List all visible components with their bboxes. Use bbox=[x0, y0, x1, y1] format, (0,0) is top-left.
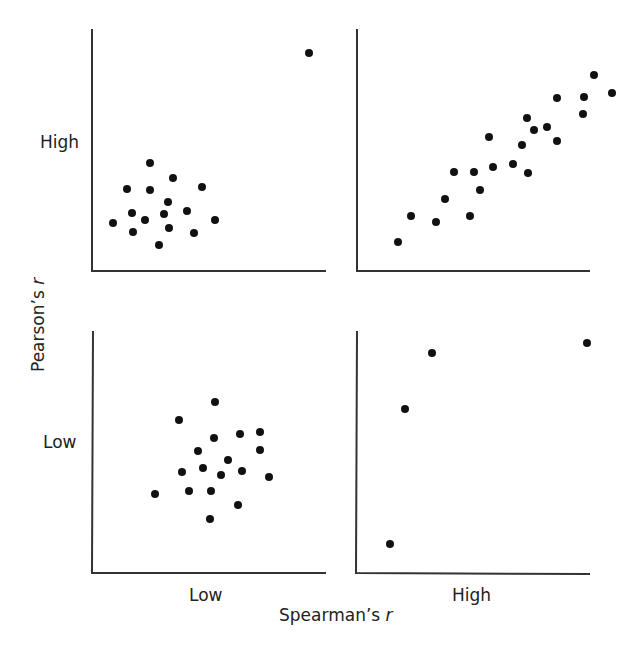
data-point bbox=[580, 93, 588, 101]
panel-top-right bbox=[357, 29, 616, 271]
panel-bottom-left bbox=[92, 331, 326, 573]
data-point bbox=[169, 174, 177, 182]
data-point bbox=[407, 212, 415, 220]
points-top-left bbox=[109, 49, 313, 249]
data-point bbox=[583, 339, 591, 347]
data-point bbox=[160, 210, 168, 218]
data-point bbox=[206, 515, 214, 523]
axes-bottom-left bbox=[92, 331, 326, 573]
data-point bbox=[509, 160, 517, 168]
data-point bbox=[553, 137, 561, 145]
points-bottom-left bbox=[151, 398, 273, 523]
data-point bbox=[386, 540, 394, 548]
data-point bbox=[210, 434, 218, 442]
x-axis-title: Spearman’s r bbox=[279, 605, 393, 625]
axes-top-right bbox=[357, 29, 590, 271]
data-point bbox=[141, 216, 149, 224]
data-point bbox=[155, 241, 163, 249]
data-point bbox=[441, 195, 449, 203]
data-point bbox=[579, 110, 587, 118]
col-label-high: High bbox=[452, 585, 491, 605]
data-point bbox=[450, 168, 458, 176]
scatter-matrix-figure bbox=[0, 0, 642, 653]
col-label-low: Low bbox=[189, 585, 222, 605]
data-point bbox=[530, 126, 538, 134]
data-point bbox=[394, 238, 402, 246]
points-top-right bbox=[394, 71, 616, 246]
data-point bbox=[175, 416, 183, 424]
data-point bbox=[401, 405, 409, 413]
data-point bbox=[185, 487, 193, 495]
data-point bbox=[146, 159, 154, 167]
data-point bbox=[194, 447, 202, 455]
data-point bbox=[256, 446, 264, 454]
data-point bbox=[109, 219, 117, 227]
axes-bottom-right bbox=[356, 331, 590, 574]
data-point bbox=[128, 209, 136, 217]
data-point bbox=[466, 212, 474, 220]
data-point bbox=[211, 216, 219, 224]
data-point bbox=[553, 94, 561, 102]
data-point bbox=[217, 471, 225, 479]
data-point bbox=[183, 207, 191, 215]
row-label-low: Low bbox=[43, 432, 76, 452]
x-axis-title-var: r bbox=[386, 605, 393, 625]
y-axis-title-var: r bbox=[28, 278, 48, 285]
panel-bottom-right bbox=[356, 331, 591, 574]
data-point bbox=[524, 169, 532, 177]
data-point bbox=[224, 456, 232, 464]
data-point bbox=[608, 89, 616, 97]
data-point bbox=[164, 198, 172, 206]
data-point bbox=[146, 186, 154, 194]
data-point bbox=[590, 71, 598, 79]
data-point bbox=[165, 224, 173, 232]
data-point bbox=[476, 186, 484, 194]
y-axis-title: Pearson’s r bbox=[28, 278, 48, 372]
data-point bbox=[236, 430, 244, 438]
data-point bbox=[199, 464, 207, 472]
data-point bbox=[256, 428, 264, 436]
data-point bbox=[123, 185, 131, 193]
panel-top-left bbox=[92, 29, 326, 271]
data-point bbox=[178, 468, 186, 476]
data-point bbox=[470, 168, 478, 176]
x-axis-title-text: Spearman’s bbox=[279, 605, 380, 625]
data-point bbox=[518, 141, 526, 149]
data-point bbox=[129, 228, 137, 236]
data-point bbox=[485, 133, 493, 141]
data-point bbox=[190, 229, 198, 237]
data-point bbox=[234, 501, 242, 509]
data-point bbox=[151, 490, 159, 498]
y-axis-title-text: Pearson’s bbox=[28, 290, 48, 372]
data-point bbox=[432, 218, 440, 226]
data-point bbox=[428, 349, 436, 357]
data-point bbox=[211, 398, 219, 406]
data-point bbox=[238, 467, 246, 475]
data-point bbox=[207, 487, 215, 495]
data-point bbox=[523, 114, 531, 122]
data-point bbox=[198, 183, 206, 191]
points-bottom-right bbox=[386, 339, 591, 548]
data-point bbox=[489, 163, 497, 171]
axes-top-left bbox=[92, 29, 326, 271]
data-point bbox=[543, 123, 551, 131]
data-point bbox=[265, 473, 273, 481]
data-point bbox=[305, 49, 313, 57]
row-label-high: High bbox=[40, 132, 79, 152]
